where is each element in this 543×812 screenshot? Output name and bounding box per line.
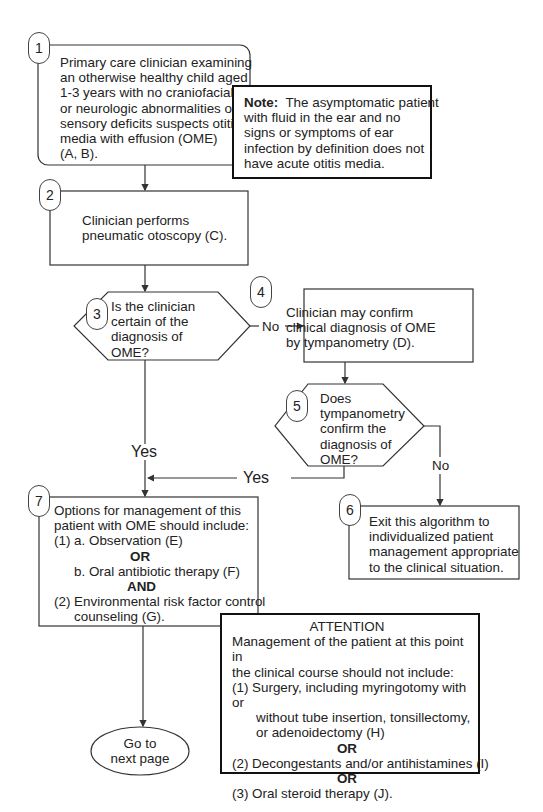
node-6-text[interactable]: Exit this algorithm to individualized pa… — [369, 514, 519, 575]
note-line: infection by definition does not — [244, 141, 439, 156]
edge-5-yes-label: Yes — [240, 470, 272, 485]
node-5-line: tympanometry — [320, 406, 405, 421]
node-1-line: media with effusion (OME) — [60, 131, 252, 146]
node-2-line: pneumatic otoscopy (C). — [82, 228, 227, 243]
node-4-text[interactable]: Clinician may confirm clinical diagnosis… — [286, 305, 436, 351]
node-1-line: an otherwise healthy child aged — [60, 70, 252, 85]
node-1-line: or neurologic abnormalities or — [60, 101, 252, 116]
edge-5-no-label: No — [429, 458, 452, 473]
attention-line: the clinical course should not include: — [232, 665, 476, 680]
edge-3-no-label: No — [259, 319, 282, 334]
edge-3-yes-label: Yes — [128, 444, 160, 459]
node-5-line: diagnosis of — [320, 437, 405, 452]
note-line: signs or symptoms of ear — [244, 125, 439, 140]
node-2-number-badge: 2 — [39, 179, 61, 211]
node-7-and: AND — [54, 579, 254, 594]
node-1-text[interactable]: Primary care clinician examining an othe… — [60, 55, 252, 161]
node-5-number-badge: 5 — [286, 390, 308, 422]
node-1-line: Primary care clinician examining — [60, 55, 252, 70]
attention-or: OR — [232, 741, 476, 756]
node-7-or: OR — [54, 549, 254, 564]
attention-text: ATTENTION Management of the patient at t… — [232, 619, 476, 801]
node-1-number-badge: 1 — [28, 32, 50, 64]
attention-line: Management of the patient at this point … — [232, 634, 476, 664]
node-5-line: confirm the — [320, 421, 405, 436]
node-3-text[interactable]: Is the clinician certain of the diagnosi… — [111, 299, 195, 360]
terminal-line: Go to — [92, 736, 188, 751]
node-3-line: Is the clinician — [111, 299, 195, 314]
node-7-option-2: (2) Environmental risk factor control — [54, 594, 254, 609]
terminal-go-to-next-page[interactable]: Go to next page — [92, 736, 188, 766]
node-4-line: Clinician may confirm — [286, 305, 436, 320]
attention-item-2: (2) Decongestants and/or antihistamines … — [232, 756, 476, 771]
node-3-number-badge: 3 — [86, 298, 108, 330]
node-1-line: (A, B). — [60, 146, 252, 161]
node-7-option-1a: (1) a. Observation (E) — [54, 533, 254, 548]
node-7-line: Options for management of this — [54, 503, 254, 518]
node-6-number-badge: 6 — [339, 494, 361, 526]
node-3-line: certain of the — [111, 314, 195, 329]
node-7-number-badge: 7 — [28, 485, 50, 517]
node-7-option-1b: b. Oral antibiotic therapy (F) — [54, 564, 254, 579]
attention-item-1: (1) Surgery, including myringotomy with … — [232, 680, 476, 710]
node-6-line: Exit this algorithm to — [369, 514, 519, 529]
node-1-line: sensory deficits suspects otitis — [60, 116, 252, 131]
node-2-line: Clinician performs — [82, 213, 227, 228]
node-4-number-badge: 4 — [250, 276, 272, 308]
terminal-line: next page — [92, 751, 188, 766]
attention-item-1-cont: without tube insertion, tonsillectomy, — [232, 710, 476, 725]
node-6-line: management appropriate — [369, 544, 519, 559]
node-4-line: by tympanometry (D). — [286, 335, 436, 350]
node-3-line: diagnosis of — [111, 329, 195, 344]
node-6-line: individualized patient — [369, 529, 519, 544]
note-line: The asymptomatic patient — [285, 95, 438, 110]
note-line: have acute otitis media. — [244, 156, 439, 171]
node-7-text[interactable]: Options for management of this patient w… — [54, 503, 254, 625]
node-5-text[interactable]: Does tympanometry confirm the diagnosis … — [320, 391, 405, 467]
node-7-line: patient with OME should include: — [54, 518, 254, 533]
note-text: Note: The asymptomatic patient with flui… — [244, 95, 439, 171]
attention-item-3: (3) Oral steroid therapy (J). — [232, 786, 476, 801]
node-5-line: OME? — [320, 452, 405, 467]
note-label: Note: — [244, 95, 278, 110]
attention-or: OR — [232, 771, 476, 786]
node-2-text[interactable]: Clinician performs pneumatic otoscopy (C… — [82, 213, 227, 243]
node-3-line: OME? — [111, 345, 195, 360]
node-4-line: clinical diagnosis of OME — [286, 320, 436, 335]
attention-item-1-cont: or adenoidectomy (H) — [232, 725, 476, 740]
attention-title: ATTENTION — [232, 619, 476, 634]
node-1-line: 1-3 years with no craniofacial — [60, 85, 252, 100]
note-line: with fluid in the ear and no — [244, 110, 439, 125]
node-6-line: to the clinical situation. — [369, 560, 519, 575]
node-5-line: Does — [320, 391, 405, 406]
